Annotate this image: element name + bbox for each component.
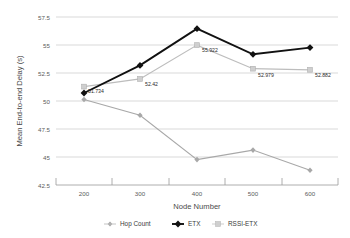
data-label-600: 52.882	[315, 72, 331, 78]
y-tick-label-3: 50	[43, 98, 50, 105]
rssi-etx-point-500	[251, 66, 256, 71]
legend-label-etx[interactable]: ETX	[188, 220, 201, 227]
x-tick-label-400: 400	[192, 190, 203, 197]
x-tick-label-300: 300	[135, 190, 146, 197]
x-tick-label-200: 200	[79, 190, 90, 197]
legend-label-hop-count[interactable]: Hop Count	[120, 220, 151, 228]
line-chart: 57.5 55 52.5 50 47.5 45 42.5 200 300 400…	[0, 0, 350, 238]
y-tick-label-4: 47.5	[38, 126, 51, 133]
rssi-etx-point-200	[82, 84, 87, 89]
data-label-500: 52.979	[258, 72, 274, 78]
data-label-200: 51.734	[88, 88, 104, 94]
chart-container: 57.5 55 52.5 50 47.5 45 42.5 200 300 400…	[0, 0, 350, 238]
rssi-etx-point-600	[308, 67, 313, 72]
data-label-400: 55.922	[202, 47, 218, 53]
x-tick-label-500: 500	[248, 190, 259, 197]
data-label-300: 52.42	[145, 81, 158, 87]
y-tick-label-5: 45	[43, 154, 50, 161]
rssi-etx-point-300	[138, 77, 143, 82]
legend-label-rssi-etx[interactable]: RSSI-ETX	[228, 220, 258, 227]
x-tick-label-600: 600	[305, 190, 316, 197]
y-tick-label-0: 57.5	[38, 14, 51, 21]
y-tick-label-2: 52.5	[38, 70, 51, 77]
x-axis-title: Node Number	[173, 202, 221, 211]
y-tick-label-1: 55	[43, 42, 50, 49]
rssi-etx-point-400	[195, 43, 200, 48]
y-tick-label-6: 42.5	[38, 182, 51, 189]
square-marker-icon	[216, 222, 221, 227]
y-axis-title: Mean End-to-end Delay (s)	[15, 55, 24, 147]
